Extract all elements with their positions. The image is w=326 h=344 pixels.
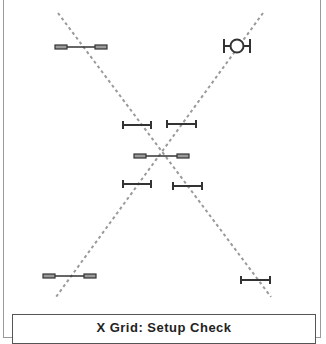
bar-rect-right bbox=[84, 274, 96, 278]
guide-diagonal-down bbox=[58, 13, 271, 297]
i-bar-marker bbox=[123, 180, 151, 188]
circle-icon bbox=[231, 40, 244, 53]
guide-diagonal-up bbox=[56, 13, 263, 297]
rect-bar-marker bbox=[43, 274, 96, 278]
i-bar-marker bbox=[173, 182, 202, 190]
i-bar-marker bbox=[241, 276, 270, 284]
i-bar-marker bbox=[167, 120, 196, 128]
bar-rect-right bbox=[95, 45, 107, 49]
bar-rect-left bbox=[55, 45, 67, 49]
bar-rect-right bbox=[177, 154, 189, 158]
title-box: X Grid: Setup Check bbox=[12, 314, 316, 344]
circle-bar-marker bbox=[224, 39, 250, 53]
diagram-title: X Grid: Setup Check bbox=[13, 315, 315, 334]
rect-bar-marker bbox=[134, 154, 189, 158]
bar-rect-left bbox=[43, 274, 55, 278]
i-bar-marker bbox=[123, 121, 151, 129]
bar-rect-left bbox=[134, 154, 146, 158]
rect-bar-marker bbox=[55, 45, 107, 49]
